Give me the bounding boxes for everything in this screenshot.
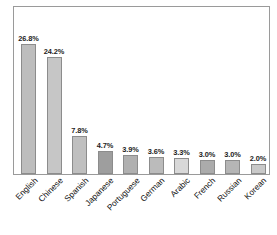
category-label-french: French [193,176,218,201]
bars-layer: 26.8%24.2%7.8%4.7%3.9%3.6%3.3%3.0%3.0%2.… [14,7,269,174]
bar-group: 24.2% [47,7,62,174]
category-label-english: English [13,176,39,202]
bar-value-label: 3.9% [122,146,138,154]
bar-value-label: 7.8% [71,127,87,135]
bar-group: 3.6% [149,7,164,174]
bar-value-label: 26.8% [18,35,38,43]
bar-value-label: 3.3% [173,149,189,157]
category-label-german: German [139,176,167,204]
bar-value-label: 3.6% [148,148,164,156]
bar [174,158,189,174]
bar [225,160,240,175]
category-label-chinese: Chinese [37,176,65,204]
bar-value-label: 4.7% [97,142,113,150]
bar-chart: 26.8%24.2%7.8%4.7%3.9%3.6%3.3%3.0%3.0%2.… [0,0,277,235]
bar-value-label: 2.0% [250,155,266,163]
bar-value-label: 3.0% [224,151,240,159]
bar-group: 3.9% [123,7,138,174]
bar-group: 3.3% [174,7,189,174]
bar-group: 26.8% [21,7,36,174]
bar [251,164,266,174]
bar [200,160,215,175]
bar [149,157,164,174]
bar [47,57,62,174]
category-label-russian: Russian [215,176,243,204]
bar-value-label: 3.0% [199,151,215,159]
bar-group: 3.0% [225,7,240,174]
category-label-arabic: Arabic [168,176,191,199]
bar [72,136,87,174]
bar-group: 4.7% [98,7,113,174]
plot-frame: 26.8%24.2%7.8%4.7%3.9%3.6%3.3%3.0%3.0%2.… [13,6,270,175]
bar-value-label: 24.2% [44,48,64,56]
category-axis-labels: EnglishChineseSpanishJapanesePortugueseG… [13,176,270,235]
bar-group: 2.0% [251,7,266,174]
bar [123,155,138,174]
category-label-korean: Korean [243,176,268,201]
bar-group: 7.8% [72,7,87,174]
bar [21,44,36,174]
bar [98,151,113,174]
bar-group: 3.0% [200,7,215,174]
